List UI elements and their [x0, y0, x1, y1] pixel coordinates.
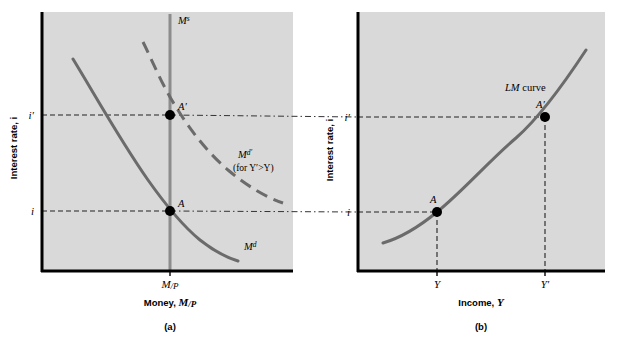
- panel-b-y-axis-title: Interest rate, i: [324, 119, 335, 181]
- panel-a: Interest rate, i i′ i M/P Money, M/P (a)…: [8, 12, 358, 332]
- panel-b-y-tick-label-i-prime: i′: [345, 111, 351, 123]
- panel-a-y-axis-title: Interest rate, i: [8, 117, 19, 179]
- panel-a-plot-area: [42, 12, 293, 272]
- panel-b-point-a: [432, 207, 442, 217]
- panel-b-y-tick-label-i: i: [347, 206, 350, 218]
- panel-a-point-a-label: A: [177, 198, 185, 209]
- panel-b-point-a-label: A: [429, 194, 437, 205]
- panel-b-point-a-prime: [540, 112, 550, 122]
- panel-b-x-tick-label-y-prime: Y′: [541, 278, 550, 290]
- panel-a-point-a: [165, 206, 175, 216]
- panel-a-x-tick-label-m-over-p: M/P: [160, 278, 179, 291]
- panel-b-x-axis-title: Income, Y: [458, 296, 505, 308]
- lm-curve-figure: Interest rate, i i′ i M/P Money, M/P (a)…: [0, 0, 619, 342]
- figure-canvas: Interest rate, i i′ i M/P Money, M/P (a)…: [0, 0, 619, 342]
- panel-a-caption: (a): [164, 321, 176, 332]
- panel-a-point-a-prime-label: A′: [177, 101, 187, 112]
- panel-b-point-a-prime-label: A′: [535, 99, 545, 110]
- lm-curve-label: LM curve: [504, 82, 546, 93]
- panel-b: Interest rate, i i′ i Y Y′ Income, Y (b)…: [324, 12, 605, 332]
- panel-a-x-axis-title: Money, M/P: [144, 296, 197, 309]
- panel-b-plot-area: [358, 12, 605, 272]
- panel-b-x-tick-label-y: Y: [434, 278, 442, 290]
- panel-a-y-tick-label-i-prime: i′: [29, 109, 35, 121]
- panel-b-caption: (b): [475, 321, 487, 332]
- panel-a-y-tick-label-i: i: [31, 205, 34, 217]
- panel-a-point-a-prime: [165, 110, 175, 120]
- money-demand-shifted-note: (for Y′>Y): [233, 163, 274, 174]
